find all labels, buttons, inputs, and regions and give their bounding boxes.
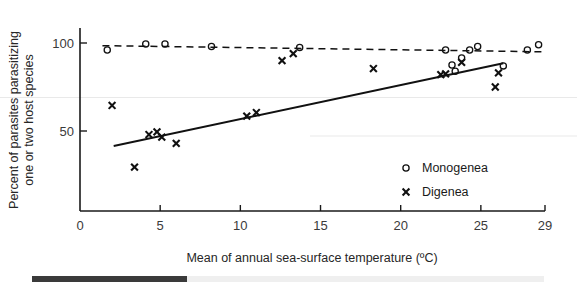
datapoint-monogenea-0 xyxy=(104,47,110,53)
datapoint-digenea-10 xyxy=(370,65,377,72)
datapoint-monogenea-6 xyxy=(449,62,455,68)
x-ticklabel-15: 15 xyxy=(313,218,327,233)
datapoint-digenea-0 xyxy=(109,102,116,109)
scatter-plot-svg: 50100051015202529Mean of annual sea-surf… xyxy=(0,0,577,284)
datapoint-digenea-5 xyxy=(173,140,180,147)
legend-marker-monogenea xyxy=(403,165,409,171)
datapoint-monogenea-13 xyxy=(535,42,541,48)
y-axis-title-line1: Percent of parasites parasitizing xyxy=(7,31,21,209)
datapoint-monogenea-1 xyxy=(143,41,149,47)
datapoint-digenea-14 xyxy=(495,70,502,77)
x-axis-title: Mean of annual sea-surface temperature (… xyxy=(186,251,437,265)
x-ticklabel-5: 5 xyxy=(157,218,164,233)
x-ticklabel-10: 10 xyxy=(233,218,247,233)
x-ticklabel-29: 29 xyxy=(538,218,552,233)
datapoint-digenea-2 xyxy=(146,131,153,138)
datapoint-digenea-8 xyxy=(279,57,286,64)
datapoint-digenea-9 xyxy=(290,50,297,57)
legend-marker-digenea xyxy=(403,189,410,196)
legend-label-digenea: Digenea xyxy=(422,185,469,199)
horizontal-scrollbar-thumb[interactable] xyxy=(32,276,187,282)
datapoint-monogenea-4 xyxy=(297,44,303,50)
y-ticklabel-100: 100 xyxy=(52,36,74,51)
chart-figure: 50100051015202529Mean of annual sea-surf… xyxy=(0,0,577,284)
y-axis-title-line2: one or two host species xyxy=(22,54,36,185)
legend-label-monogenea: Monogenea xyxy=(422,161,488,175)
x-ticklabel-25: 25 xyxy=(474,218,488,233)
y-ticklabel-50: 50 xyxy=(60,124,74,139)
datapoint-monogenea-10 xyxy=(475,43,481,49)
x-ticklabel-0: 0 xyxy=(76,218,83,233)
datapoint-digenea-13 xyxy=(458,59,465,66)
datapoint-digenea-15 xyxy=(492,84,499,91)
x-ticklabel-20: 20 xyxy=(393,218,407,233)
datapoint-digenea-1 xyxy=(131,164,138,171)
